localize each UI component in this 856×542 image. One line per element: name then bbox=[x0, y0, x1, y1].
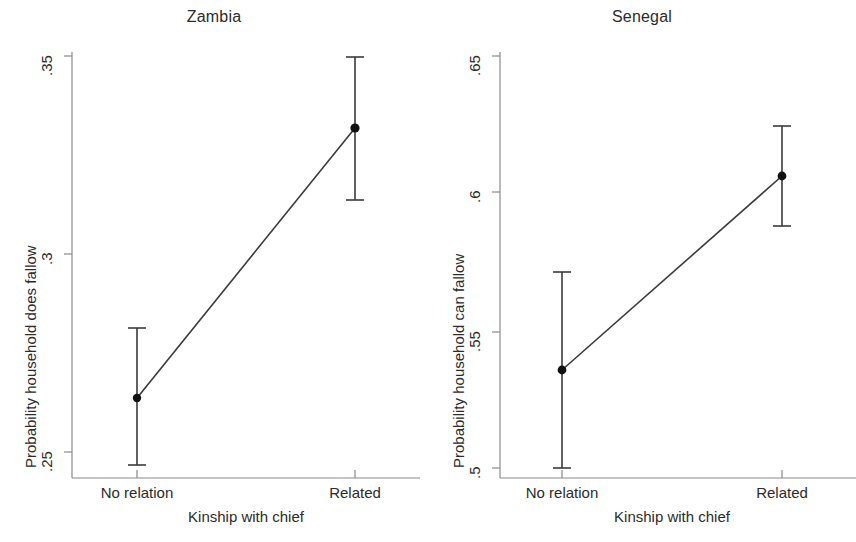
y-tick-label-senegal-2: .55 bbox=[466, 331, 483, 352]
y-axis-title-senegal: Probability household can fallow bbox=[450, 254, 467, 468]
x-tick-label-zambia-no-relation: No relation bbox=[101, 484, 174, 501]
x-tick-label-zambia-related: Related bbox=[329, 484, 381, 501]
y-tick-label-zambia-1: .3 bbox=[38, 252, 55, 265]
y-tick-label-zambia-2: .25 bbox=[38, 451, 55, 472]
data-point-senegal-related bbox=[778, 172, 787, 181]
data-point-senegal-no-relation bbox=[558, 366, 567, 375]
y-tick-label-senegal-0: .65 bbox=[466, 55, 483, 76]
data-point-zambia-no-relation bbox=[133, 394, 141, 402]
x-axis-title-senegal: Kinship with chief bbox=[614, 508, 730, 525]
series-line-zambia bbox=[137, 128, 355, 398]
panel-zambia: Zambia bbox=[0, 0, 428, 542]
panel-senegal: Senegal bbox=[428, 0, 856, 542]
plot-area-senegal bbox=[428, 0, 856, 542]
figure-two-panel-marginal-effects: Zambia bbox=[0, 0, 856, 542]
x-axis-title-zambia: Kinship with chief bbox=[188, 508, 304, 525]
x-tick-label-senegal-related: Related bbox=[756, 484, 808, 501]
series-line-senegal bbox=[562, 176, 782, 370]
y-tick-label-senegal-1: .6 bbox=[466, 190, 483, 203]
y-tick-label-senegal-3: .5 bbox=[466, 466, 483, 479]
plot-area-zambia bbox=[0, 0, 428, 542]
y-tick-label-zambia-0: .35 bbox=[38, 55, 55, 76]
y-axis-title-zambia: Probability household does fallow bbox=[22, 245, 39, 468]
data-point-zambia-related bbox=[350, 123, 359, 132]
x-tick-label-senegal-no-relation: No relation bbox=[526, 484, 599, 501]
